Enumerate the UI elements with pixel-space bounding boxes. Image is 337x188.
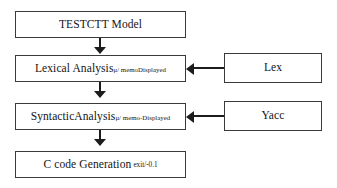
arrow-line-yacc-to-syntax (193, 115, 224, 117)
stage-label-syntax: SyntacticAnalysis (31, 111, 116, 123)
stage-label-codegen: C code Generation (43, 159, 131, 171)
stage-box-lexical: Lexical Analysisμ/ memoDisplayed (15, 55, 186, 82)
stage-box-model: TESTCTT Model (15, 11, 186, 38)
stage-annotation-syntax: μ/ memo-Displayed (115, 115, 170, 122)
tool-box-yacc: Yacc (224, 101, 322, 131)
arrow-line-lex-to-lexical (193, 67, 224, 69)
tool-label-yacc: Yacc (262, 110, 285, 122)
flowchart-diagram: TESTCTT Model Lexical Analysisμ/ memoDis… (0, 0, 337, 188)
stage-label-lexical: Lexical Analysis (35, 63, 114, 75)
stage-box-syntax: SyntacticAnalysisμ/ memo-Displayed (15, 103, 186, 130)
arrow-head-lex-to-lexical (186, 63, 194, 75)
tool-box-lex: Lex (224, 53, 322, 83)
stage-box-codegen: C code Generationexit/-0.1 (15, 151, 186, 178)
arrow-head-lexical-to-syntax (94, 91, 106, 98)
arrow-head-model-to-lexical (94, 47, 106, 54)
tool-label-lex: Lex (264, 62, 282, 74)
arrow-head-syntax-to-codegen (94, 139, 106, 146)
stage-label-model: TESTCTT Model (59, 19, 142, 31)
arrow-head-yacc-to-syntax (186, 111, 194, 123)
stage-annotation-codegen: exit/-0.1 (133, 162, 157, 169)
stage-annotation-lexical: μ/ memoDisplayed (113, 67, 166, 74)
